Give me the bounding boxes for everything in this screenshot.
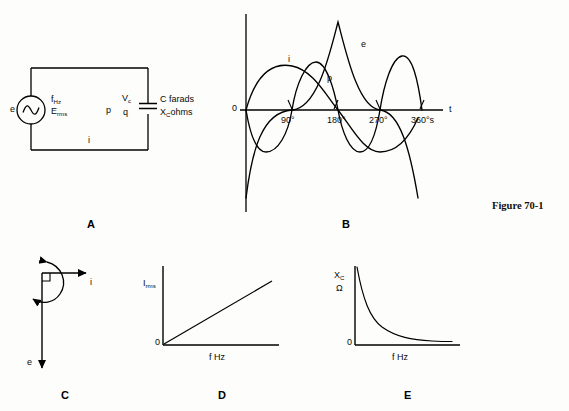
figure-vector-layer [0, 0, 569, 411]
right-angle-marker [42, 273, 50, 281]
panel-b-curve-label-p: p [327, 74, 332, 83]
figure-70-1-root: e fHz Erms p Vc q C farads XCohms i 0 t … [0, 0, 569, 411]
panel-a-circuit [17, 68, 157, 150]
panel-b-origin-label: 0 [232, 104, 237, 113]
capacitive-reactance-label: XCohms [160, 108, 192, 118]
source-rms-emf-label: Erms [51, 107, 67, 117]
panel-b-tick-label-90: 90° [281, 116, 295, 125]
panel-letter-c: C [61, 389, 69, 401]
panel-e-origin-label: 0 [347, 338, 352, 347]
figure-caption: Figure 70-1 [492, 200, 543, 211]
panel-letter-e: E [404, 389, 411, 401]
panel-e-graph [355, 266, 460, 345]
source-frequency-unit: Hz [54, 98, 61, 105]
panel-b-tick-label-360: 360°s [411, 116, 434, 125]
panel-letter-b: B [342, 218, 350, 230]
panel-d-graph [163, 266, 279, 345]
panel-letter-a: A [87, 218, 95, 230]
source-frequency-label: fHz [51, 95, 61, 105]
panel-c-phasor [33, 262, 86, 368]
ac-source-sine-glyph [23, 106, 39, 114]
charge-label: q [123, 108, 128, 117]
panel-b-curve-label-i: i [288, 55, 290, 64]
panel-b-curve-label-e: e [361, 40, 366, 49]
capacitor-voltage-subscript: c [128, 97, 131, 104]
phasor-emf-label: e [27, 358, 32, 367]
panel-b-tick-270 [376, 100, 380, 109]
source-emf-label: e [10, 105, 15, 114]
panel-e-y-axis-unit: Ω [336, 284, 343, 293]
panel-d-origin-label: 0 [155, 338, 160, 347]
panel-e-y-axis-label: XC [334, 271, 344, 281]
panel-e-y-axis-subscript: C [340, 274, 344, 281]
panel-letter-d: D [218, 389, 226, 401]
rotation-arc-arrow [33, 262, 64, 302]
capacitance-value-label: C farads [160, 95, 194, 104]
panel-b-graph [240, 14, 443, 212]
capacitor-voltage-label: Vc [122, 94, 131, 104]
circuit-current-label: i [88, 136, 90, 145]
panel-b-tick-90 [288, 100, 292, 109]
source-rms-subscript: rms [57, 110, 67, 117]
panel-e-x-axis-label: f Hz [392, 353, 408, 362]
panel-b-time-axis-label: t [449, 105, 452, 114]
panel-d-y-axis-label: Irms [143, 279, 156, 289]
phasor-current-label: i [90, 278, 92, 287]
panel-b-tick-label-270: 270° [369, 116, 388, 125]
panel-d-y-axis-subscript: rms [146, 282, 156, 289]
reactance-unit: ohms [170, 107, 192, 117]
panel-d-x-axis-label: f Hz [209, 353, 225, 362]
panel-b-tick-label-180: 180° [327, 116, 346, 125]
panel-e-hyperbola-curve [357, 267, 452, 342]
power-label-a: p [106, 106, 111, 115]
panel-d-linear-curve [164, 281, 272, 344]
